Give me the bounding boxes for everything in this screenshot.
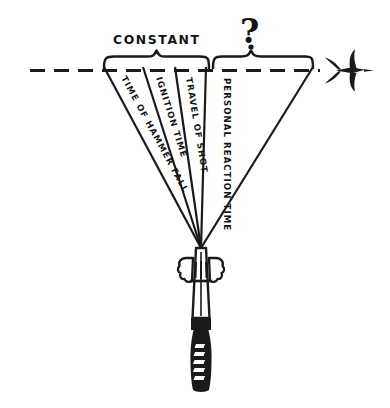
shotgun-stock [190,330,211,392]
hands-grip [178,258,224,282]
wedge-label-text: PERSONAL REACTION TIME [222,78,232,231]
shotgun [178,248,224,392]
brace-constant [104,51,209,69]
diagram-root: CONSTANT ? TIME OF HAMMER FALL IGNITION … [0,0,390,408]
shotgun-barrel [193,248,210,318]
lead-time-diagram: CONSTANT ? TIME OF HAMMER FALL IGNITION … [0,0,390,408]
constant-label: CONSTANT [113,32,201,47]
shotgun-receiver [191,318,211,330]
wedge-label-personal-reaction-time: PERSONAL REACTION TIME [222,78,232,231]
variable-question-mark: ? [240,12,259,51]
flying-bird-target [325,50,374,92]
brace-variable [213,44,313,68]
